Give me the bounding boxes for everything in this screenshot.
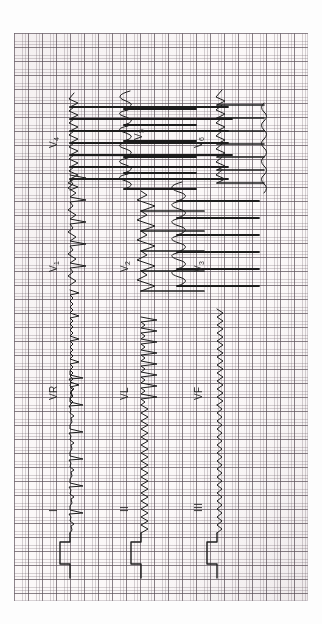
lead-label-v6: V6 [193, 137, 204, 148]
lead-label-iii: III [193, 503, 204, 512]
lead-label-ii: II [119, 506, 130, 512]
lead-label-v2: V2 [119, 261, 130, 272]
lead-label-vf: VF [193, 387, 204, 400]
lead-label-v4: V4 [48, 137, 59, 148]
ecg-traces [14, 33, 308, 601]
lead-label-v1: V1 [48, 261, 59, 272]
trace-channel-2 [119, 91, 204, 578]
lead-label-vl: VL [119, 387, 130, 400]
lead-label-vr: VR [48, 386, 59, 401]
scan-background: V4 V1 VR I V5 V2 VL II V6 V3 VF III [0, 0, 322, 624]
trace-channel-3 [172, 90, 267, 578]
lead-label-i: I [48, 509, 59, 512]
trace-channel-1 [60, 93, 232, 578]
ecg-paper [14, 33, 308, 601]
lead-label-v5: V5 [133, 129, 144, 140]
lead-label-v3: V3 [193, 261, 204, 272]
